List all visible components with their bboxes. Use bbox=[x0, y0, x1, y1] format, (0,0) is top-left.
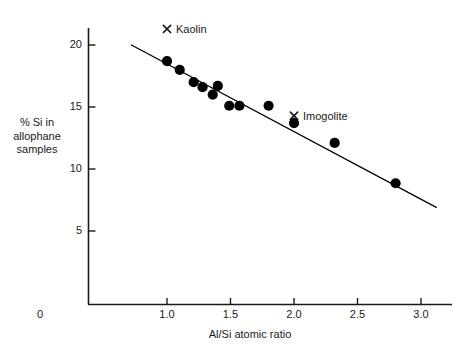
annotation-label-kaolin: Kaolin bbox=[176, 23, 207, 35]
data-point-0 bbox=[162, 56, 172, 66]
data-point-1 bbox=[175, 65, 185, 75]
data-points bbox=[162, 56, 401, 188]
y-axis-label-line-1: % Si in bbox=[20, 116, 54, 128]
y-axis-label-line-3: samples bbox=[17, 143, 58, 155]
x-tick-label-5: 3.0 bbox=[406, 308, 436, 320]
annotation-marker-kaolin bbox=[163, 25, 170, 32]
y-axis-label-line-2: allophane bbox=[13, 130, 61, 142]
y-axis-label: % Si inallophanesamples bbox=[4, 116, 70, 157]
x-tick-label-4: 2.5 bbox=[343, 308, 373, 320]
y-tick-label-1: 10 bbox=[58, 162, 82, 174]
annotation-label-imogolite: Imogolite bbox=[303, 110, 348, 122]
data-point-10 bbox=[330, 138, 340, 148]
x-tick-label-2: 1.5 bbox=[216, 308, 246, 320]
x-axis-label: Al/Si atomic ratio bbox=[150, 328, 350, 340]
x-tick-label-3: 2.0 bbox=[279, 308, 309, 320]
plot-area bbox=[0, 0, 463, 357]
data-point-4 bbox=[208, 90, 218, 100]
y-tick-label-2: 15 bbox=[58, 100, 82, 112]
scatter-chart-figure: % Si inallophanesamples Al/Si atomic rat… bbox=[0, 0, 463, 357]
data-point-11 bbox=[391, 178, 401, 188]
x-tick-label-0: 0 bbox=[25, 308, 55, 320]
axis-ticks bbox=[89, 45, 422, 305]
data-point-7 bbox=[234, 101, 244, 111]
axis-lines bbox=[88, 28, 452, 305]
data-point-3 bbox=[197, 82, 207, 92]
data-point-5 bbox=[213, 81, 223, 91]
data-point-8 bbox=[264, 101, 274, 111]
y-tick-label-3: 20 bbox=[58, 38, 82, 50]
y-tick-label-0: 5 bbox=[58, 224, 82, 236]
x-tick-label-1: 1.0 bbox=[152, 308, 182, 320]
data-point-6 bbox=[224, 101, 234, 111]
data-point-2 bbox=[189, 77, 199, 87]
